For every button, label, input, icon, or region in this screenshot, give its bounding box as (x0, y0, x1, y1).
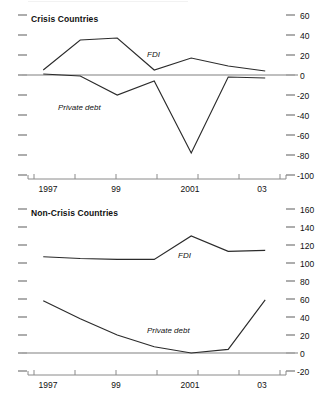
ytick-label-noncrisis-0: 0 (300, 349, 305, 359)
figure-root: Crisis Countries 60 40 20 0 -20 -40 -60 … (0, 0, 330, 404)
ytick-label-crisis-neg60: -60 (297, 131, 309, 141)
ytick-label-noncrisis-20: 20 (300, 331, 309, 341)
series-line-private-debt (43, 74, 265, 153)
xtick-label-crisis-99: 99 (111, 184, 120, 194)
series-label-noncrisis-private-debt: Private debt (147, 326, 190, 335)
ytick-label-noncrisis-40: 40 (300, 313, 309, 323)
ytick-label-crisis-neg40: -40 (297, 111, 309, 121)
xtick-label-noncrisis-1997: 1997 (39, 380, 58, 390)
ytick-label-crisis-0: 0 (300, 71, 305, 81)
ytick-label-crisis-neg20: -20 (297, 91, 309, 101)
ytick-label-noncrisis-80: 80 (300, 277, 309, 287)
ytick-label-noncrisis-100: 100 (300, 259, 314, 269)
chart-panel-non-crisis-countries: Non-Crisis Countries 160 140 120 100 80 … (0, 198, 330, 404)
ytick-label-noncrisis-140: 140 (300, 223, 314, 233)
series-label-crisis-fdi: FDI (147, 50, 160, 59)
xtick-label-noncrisis-99: 99 (111, 380, 120, 390)
series-label-crisis-private-debt: Private debt (58, 103, 101, 112)
series-line-fdi (43, 236, 265, 259)
xtick-label-crisis-03: 03 (257, 184, 266, 194)
ytick-label-noncrisis-60: 60 (300, 295, 309, 305)
ytick-label-crisis-20: 20 (300, 51, 309, 61)
ytick-label-crisis-60: 60 (300, 11, 309, 21)
ytick-label-noncrisis-120: 120 (300, 241, 314, 251)
series-label-noncrisis-fdi: FDI (178, 251, 191, 260)
plot-area-crisis (0, 0, 330, 200)
xtick-label-crisis-2001: 2001 (181, 184, 200, 194)
ytick-label-crisis-neg100: -100 (297, 171, 314, 181)
plot-area-noncrisis (0, 198, 330, 404)
ytick-label-crisis-neg80: -80 (297, 151, 309, 161)
ytick-label-noncrisis-160: 160 (300, 205, 314, 215)
xtick-label-noncrisis-2001: 2001 (181, 380, 200, 390)
xtick-label-crisis-1997: 1997 (39, 184, 58, 194)
chart-panel-crisis-countries: Crisis Countries 60 40 20 0 -20 -40 -60 … (0, 0, 330, 200)
ytick-label-noncrisis-neg20: -20 (297, 367, 309, 377)
xtick-label-noncrisis-03: 03 (257, 380, 266, 390)
ytick-label-crisis-40: 40 (300, 31, 309, 41)
